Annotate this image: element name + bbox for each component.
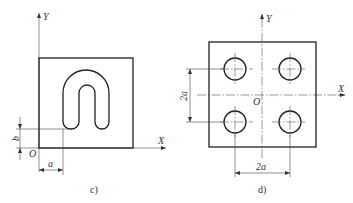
horiz-2a-label: 2a bbox=[256, 161, 266, 172]
u-slot bbox=[63, 70, 109, 129]
hole-bottom-right bbox=[272, 106, 305, 137]
square-plate bbox=[209, 42, 316, 147]
b-dimension-label: b bbox=[10, 136, 21, 141]
figure-c: Y X O b a c) bbox=[10, 11, 166, 196]
hole-top-left bbox=[220, 53, 253, 84]
hole-top-right bbox=[272, 53, 305, 84]
figure-d: Y X O 2a bbox=[178, 13, 345, 196]
y-axis-label: Y bbox=[266, 13, 273, 24]
origin-label: O bbox=[29, 148, 36, 159]
y-axis-label: Y bbox=[43, 11, 50, 22]
diagram-canvas: Y X O b a c) Y X O bbox=[0, 0, 353, 203]
figure-d-caption: d) bbox=[258, 184, 266, 196]
origin-label: O bbox=[253, 96, 260, 107]
hole-bottom-left bbox=[220, 106, 253, 137]
x-axis-label: X bbox=[337, 83, 345, 94]
a-dimension-label: a bbox=[48, 158, 53, 169]
figure-c-caption: c) bbox=[90, 184, 98, 196]
vert-2a-label: 2a bbox=[178, 91, 189, 101]
square-plate bbox=[39, 58, 133, 148]
x-axis-label: X bbox=[157, 135, 165, 146]
